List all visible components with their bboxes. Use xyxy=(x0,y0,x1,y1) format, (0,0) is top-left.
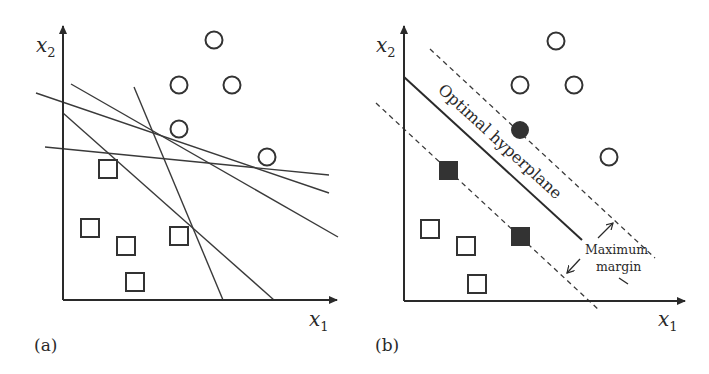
class-circle-point xyxy=(171,77,188,94)
margin-tick xyxy=(619,278,628,284)
class-circle-point xyxy=(206,32,223,49)
panel-a: x2 x1 (a) xyxy=(34,26,338,355)
support-vector-circle xyxy=(512,122,528,138)
support-vector-square xyxy=(512,228,529,245)
panel-a-circles xyxy=(171,32,276,166)
class-square-point xyxy=(421,220,439,238)
margin-arrow-down-icon xyxy=(567,259,580,273)
margin-annotation: Maximum margin xyxy=(567,223,648,284)
class-circle-point xyxy=(601,149,618,166)
y-axis-label: x2 xyxy=(376,33,396,60)
hyperplane-label: Optimal hyperplane xyxy=(434,80,566,203)
class-square-point xyxy=(81,219,99,237)
class-square-point xyxy=(126,273,144,291)
margin-arrow-up-icon xyxy=(598,223,613,238)
class-circle-point xyxy=(548,33,565,50)
class-square-point xyxy=(99,160,117,178)
class-square-point xyxy=(117,237,135,255)
separating-line xyxy=(63,113,274,300)
class-circle-point xyxy=(512,77,529,94)
upper-margin-line xyxy=(430,49,655,258)
class-square-point xyxy=(170,227,188,245)
separating-line xyxy=(134,87,223,300)
panel-b: Optimal hyperplane Maximum margin x2 x1 … xyxy=(375,26,685,355)
class-circle-point xyxy=(224,77,241,94)
svm-figure: x2 x1 (a) Optimal hyperplane Maxim xyxy=(0,0,709,374)
panel-b-squares xyxy=(421,162,529,293)
x-axis-label: x1 xyxy=(309,307,329,334)
margin-label-line2: margin xyxy=(596,259,641,274)
panel-label-b: (b) xyxy=(375,335,399,355)
x-axis-label: x1 xyxy=(658,307,678,334)
class-circle-point xyxy=(171,121,188,138)
class-circle-point xyxy=(566,77,583,94)
class-square-point xyxy=(468,275,486,293)
panel-a-separating-lines xyxy=(36,84,338,300)
y-axis-label: x2 xyxy=(36,33,56,60)
class-circle-point xyxy=(259,149,276,166)
class-square-point xyxy=(457,237,475,255)
separating-line xyxy=(36,93,329,193)
panel-a-squares xyxy=(81,160,188,291)
support-vector-square xyxy=(440,162,457,179)
panel-label-a: (a) xyxy=(34,335,57,355)
margin-label-line1: Maximum xyxy=(585,242,648,257)
optimal-hyperplane xyxy=(404,77,582,240)
panel-b-circles xyxy=(512,33,618,166)
